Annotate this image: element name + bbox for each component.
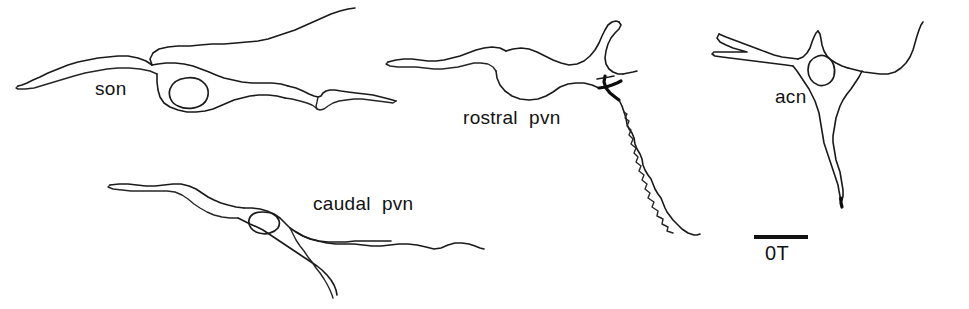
label-caudal-pvn: caudal pvn bbox=[313, 193, 413, 215]
acn-nucleus bbox=[808, 55, 835, 85]
acn-dendrite-fold bbox=[712, 34, 793, 66]
rostral-pvn-axon-hillock bbox=[599, 81, 621, 88]
acn-dendrite-right bbox=[848, 22, 923, 74]
son-dendrite-upper-right bbox=[150, 8, 355, 65]
acn-apical-spike-left bbox=[798, 31, 818, 59]
rostral-pvn-dendrite-left-lower bbox=[386, 62, 496, 71]
rostral-pvn-axon bbox=[619, 100, 700, 235]
rostral-pvn-dendrite-left-upper bbox=[388, 47, 506, 62]
son-dendrite-upper-left-top bbox=[18, 56, 152, 86]
son-nucleus bbox=[169, 78, 208, 109]
son-soma-outline bbox=[157, 74, 285, 112]
label-son: son bbox=[95, 78, 127, 100]
neuron-caudal-pvn bbox=[108, 184, 484, 298]
son-soma-upper-right bbox=[152, 63, 288, 86]
label-rostral-pvn: rostral pvn bbox=[463, 107, 561, 129]
scale-bar-label: 0T bbox=[765, 242, 789, 265]
rostral-pvn-soma-top bbox=[506, 21, 619, 65]
neuron-acn bbox=[712, 22, 923, 207]
rostral-pvn-axon-wobble bbox=[624, 112, 673, 233]
son-dendrite-kink bbox=[316, 97, 318, 109]
neuron-tracing-figure: son rostral pvn caudal pvn acn 0T bbox=[0, 0, 969, 309]
rostral-pvn-apical-hook bbox=[605, 22, 623, 74]
son-dendrite-right-upper bbox=[288, 86, 396, 101]
neuron-son bbox=[16, 8, 396, 112]
tracing-canvas bbox=[0, 0, 969, 309]
label-acn: acn bbox=[775, 86, 807, 108]
caudal-pvn-dendrite-upper bbox=[110, 184, 244, 208]
rostral-pvn-lateral-spur bbox=[623, 71, 637, 74]
rostral-pvn-soma-bottom bbox=[496, 71, 599, 100]
rostral-pvn-axon-initial bbox=[604, 76, 619, 100]
son-dendrite-right-lower bbox=[285, 98, 396, 110]
acn-axon-tip bbox=[841, 198, 842, 207]
